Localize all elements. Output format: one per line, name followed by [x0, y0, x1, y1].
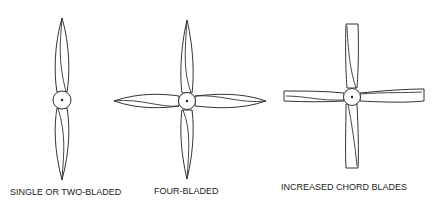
four-blade-propeller	[114, 20, 266, 179]
label-four-blade: FOUR-BLADED	[154, 186, 219, 196]
label-increased-chord: INCREASED CHORD BLADES	[281, 182, 407, 192]
two-blade-propeller	[53, 18, 71, 180]
label-two-blade: SINGLE OR TWO-BLADED	[10, 187, 121, 197]
increased-chord-propeller	[284, 24, 424, 168]
